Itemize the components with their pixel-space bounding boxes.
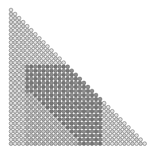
lattice-dot xyxy=(123,138,127,142)
lattice-dot xyxy=(9,61,13,65)
lattice-dot xyxy=(13,57,17,61)
lattice-dot xyxy=(106,126,110,130)
lattice-dot xyxy=(98,130,102,134)
lattice-dot xyxy=(74,134,78,138)
lattice-dot xyxy=(9,57,13,61)
lattice-dot xyxy=(102,134,106,138)
lattice-dot xyxy=(21,24,25,28)
lattice-dot xyxy=(21,77,25,81)
lattice-dot xyxy=(38,122,42,126)
lattice-dot xyxy=(25,24,29,28)
lattice-dot xyxy=(98,142,102,146)
lattice-dot xyxy=(17,85,21,89)
lattice-dot xyxy=(54,109,58,113)
lattice-dot xyxy=(82,81,86,85)
lattice-dot xyxy=(42,138,46,142)
lattice-dot xyxy=(13,142,17,146)
lattice-dot xyxy=(90,126,94,130)
lattice-dot xyxy=(46,101,50,105)
lattice-dot xyxy=(17,45,21,49)
lattice-dot xyxy=(66,65,70,69)
lattice-dot xyxy=(50,89,54,93)
lattice-dot xyxy=(9,142,13,146)
lattice-dot xyxy=(46,57,50,61)
lattice-dot xyxy=(17,130,21,134)
lattice-dot xyxy=(46,85,50,89)
lattice-dot xyxy=(42,81,46,85)
lattice-dot xyxy=(58,89,62,93)
lattice-dot xyxy=(90,93,94,97)
lattice-dot xyxy=(46,134,50,138)
lattice-dot xyxy=(70,105,74,109)
lattice-dot xyxy=(38,49,42,53)
lattice-dot xyxy=(9,77,13,81)
lattice-dot xyxy=(13,77,17,81)
lattice-dot xyxy=(70,77,74,81)
lattice-dot xyxy=(58,73,62,77)
lattice-dot xyxy=(66,142,70,146)
lattice-dot xyxy=(9,101,13,105)
lattice-dot xyxy=(21,20,25,24)
lattice-dot xyxy=(98,134,102,138)
lattice-dot xyxy=(9,20,13,24)
lattice-dot xyxy=(29,142,33,146)
lattice-dot xyxy=(54,113,58,117)
lattice-dot xyxy=(33,138,37,142)
lattice-dot xyxy=(70,85,74,89)
lattice-dot xyxy=(25,57,29,61)
lattice-dot xyxy=(74,118,78,122)
lattice-dot xyxy=(102,122,106,126)
lattice-dot xyxy=(54,85,58,89)
lattice-dot xyxy=(62,126,66,130)
lattice-dot xyxy=(13,65,17,69)
lattice-dot xyxy=(58,61,62,65)
lattice-dot xyxy=(58,122,62,126)
lattice-dot xyxy=(131,134,135,138)
lattice-dot xyxy=(62,61,66,65)
lattice-dot xyxy=(9,28,13,32)
lattice-dot xyxy=(46,126,50,130)
lattice-dot xyxy=(13,37,17,41)
lattice-dot xyxy=(25,97,29,101)
lattice-dot xyxy=(54,57,58,61)
lattice-dot xyxy=(78,93,82,97)
lattice-dot xyxy=(90,101,94,105)
lattice-dot xyxy=(50,93,54,97)
lattice-dot xyxy=(123,122,127,126)
lattice-dot xyxy=(38,77,42,81)
lattice-dot xyxy=(131,130,135,134)
lattice-dot xyxy=(78,89,82,93)
lattice-dot xyxy=(17,81,21,85)
lattice-dot xyxy=(9,53,13,57)
lattice-dot xyxy=(62,130,66,134)
lattice-dot xyxy=(54,69,58,73)
lattice-dot xyxy=(17,20,21,24)
lattice-dot xyxy=(50,81,54,85)
lattice-dot xyxy=(9,12,13,16)
lattice-dot xyxy=(119,118,123,122)
lattice-dot xyxy=(25,109,29,113)
lattice-dot xyxy=(143,142,147,146)
lattice-dot xyxy=(58,93,62,97)
lattice-dot xyxy=(62,142,66,146)
lattice-dot xyxy=(9,45,13,49)
lattice-dot xyxy=(78,142,82,146)
lattice-dot xyxy=(119,122,123,126)
lattice-dot xyxy=(42,105,46,109)
lattice-dot xyxy=(25,122,29,126)
lattice-dot xyxy=(38,41,42,45)
lattice-dot xyxy=(29,37,33,41)
lattice-dot xyxy=(62,97,66,101)
lattice-dot xyxy=(102,138,106,142)
lattice-dot xyxy=(46,89,50,93)
lattice-dot xyxy=(66,134,70,138)
lattice-dot xyxy=(25,134,29,138)
lattice-dot xyxy=(70,93,74,97)
lattice-dot xyxy=(29,138,33,142)
lattice-dot xyxy=(17,97,21,101)
lattice-dot xyxy=(70,89,74,93)
lattice-dot xyxy=(17,32,21,36)
lattice-dot xyxy=(90,105,94,109)
lattice-dot xyxy=(54,134,58,138)
lattice-dot xyxy=(114,113,118,117)
